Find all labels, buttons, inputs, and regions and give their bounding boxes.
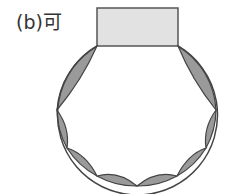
top-rectangle <box>97 8 178 46</box>
lens-segment-top-right <box>178 46 216 110</box>
lens-segment-bottom-left <box>97 174 137 186</box>
lens-segment-top-left <box>57 46 97 110</box>
lens-segment-bottom-right <box>137 174 177 186</box>
lens-segment-right <box>205 110 216 148</box>
lens-diagram <box>0 0 232 194</box>
